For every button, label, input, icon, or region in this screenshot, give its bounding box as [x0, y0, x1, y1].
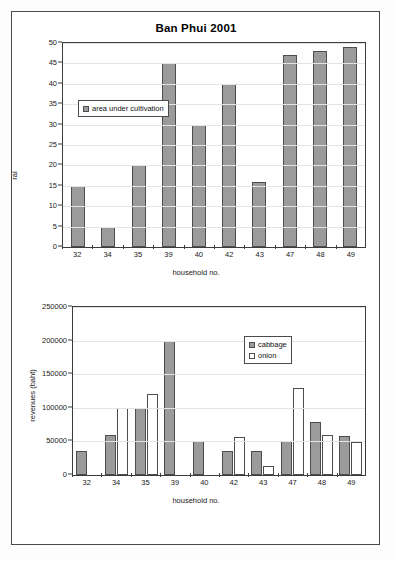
x-tick-label-48: 48: [307, 478, 336, 494]
gridline: [63, 145, 365, 146]
bar-group: [307, 307, 336, 475]
chart2-bars-layer: [73, 307, 365, 475]
legend-item-cultivation: area under cultivation: [83, 103, 164, 114]
bar-cultivation-34: [101, 227, 115, 247]
gridline: [63, 43, 365, 44]
x-tick-mark: [92, 245, 93, 249]
x-tick-label-42: 42: [214, 250, 244, 266]
y-tick-label: 15: [49, 180, 57, 189]
bar-cabbage-47: [281, 441, 292, 475]
chart-panel-cultivation: Ban Phui 2001 rai 05101520253035404550 3…: [16, 16, 376, 292]
x-tick-mark: [336, 245, 337, 249]
bar-group: [190, 307, 219, 475]
x-tick-label-34: 34: [92, 250, 122, 266]
x-tick-mark: [153, 245, 154, 249]
x-tick-label-43: 43: [248, 478, 277, 494]
bar-group: [277, 307, 306, 475]
chart1-y-axis: rai 05101520253035404550: [24, 42, 62, 248]
chart1-title: Ban Phui 2001: [16, 22, 376, 37]
legend-item-onion: onion: [249, 350, 287, 361]
x-tick-label-42: 42: [219, 478, 248, 494]
gridline: [73, 341, 365, 342]
chart1-x-axis-title: household no.: [16, 268, 376, 277]
x-tick-label-48: 48: [305, 250, 335, 266]
x-tick-mark: [337, 473, 338, 477]
x-tick-label-47: 47: [275, 250, 305, 266]
bar-onion-47: [293, 388, 304, 475]
x-tick-label-40: 40: [190, 478, 219, 494]
bar-cultivation-49: [343, 47, 357, 247]
bar-group: [161, 307, 190, 475]
bar-group: [219, 307, 248, 475]
bar-group: [131, 307, 160, 475]
bar-group: [73, 307, 102, 475]
chart1-plot-wrap: [62, 42, 366, 248]
bar-cabbage-40: [193, 441, 204, 475]
x-tick-mark: [305, 245, 306, 249]
x-tick-mark: [190, 473, 191, 477]
bar-group: [336, 307, 365, 475]
y-tick-label: 45: [49, 58, 57, 67]
bar-group: [102, 307, 131, 475]
x-tick-mark: [307, 473, 308, 477]
x-tick-label-32: 32: [72, 478, 101, 494]
gridline: [63, 125, 365, 126]
page-root: Ban Phui 2001 rai 05101520253035404550 3…: [0, 0, 395, 561]
chart2-x-axis-title: household no.: [16, 496, 376, 505]
bar-onion-35: [147, 394, 158, 475]
chart2-y-axis: revenues (baht) 050000100000150000200000…: [28, 306, 72, 476]
chart-panel-revenues: revenues (baht) 050000100000150000200000…: [16, 300, 376, 540]
bar-cultivation-48: [313, 51, 327, 247]
gridline: [63, 63, 365, 64]
x-tick-label-49: 49: [336, 250, 366, 266]
x-tick-mark: [131, 473, 132, 477]
x-tick-mark: [214, 245, 215, 249]
bar-cultivation-32: [71, 186, 85, 247]
chart2-plot-wrap: [72, 306, 366, 476]
gridline: [63, 165, 365, 166]
bar-cabbage-32: [76, 451, 87, 475]
bar-cultivation-39: [162, 63, 176, 247]
chart2-x-axis: 32343539404243474849: [72, 478, 366, 494]
bar-cabbage-43: [251, 451, 262, 475]
x-tick-mark: [184, 245, 185, 249]
y-tick-label: 30: [49, 119, 57, 128]
x-tick-mark: [62, 245, 63, 249]
chart1-legend: area under cultivation: [78, 100, 169, 117]
x-tick-label-39: 39: [153, 250, 183, 266]
chart1-y-axis-title: rai: [10, 171, 19, 179]
gridline: [63, 84, 365, 85]
gridline: [63, 227, 365, 228]
x-tick-mark: [248, 473, 249, 477]
x-tick-mark: [244, 245, 245, 249]
y-tick-label: 35: [49, 99, 57, 108]
legend-label-onion: onion: [258, 350, 276, 361]
gridline: [63, 206, 365, 207]
legend-swatch-icon-cabbage: [249, 342, 255, 348]
gridline: [73, 408, 365, 409]
bar-onion-49: [351, 442, 362, 475]
chart2-legend: cabbage onion: [244, 336, 292, 364]
x-tick-label-43: 43: [244, 250, 274, 266]
bar-onion-42: [234, 437, 245, 475]
chart1-plot-area: [62, 42, 366, 248]
x-tick-mark: [160, 473, 161, 477]
x-tick-label-47: 47: [278, 478, 307, 494]
bar-cultivation-43: [252, 182, 266, 247]
legend-label-cultivation: area under cultivation: [92, 103, 164, 114]
gridline: [73, 441, 365, 442]
y-tick-label: 0: [63, 470, 67, 479]
gridline: [73, 374, 365, 375]
x-tick-mark: [72, 473, 73, 477]
legend-item-cabbage: cabbage: [249, 339, 287, 350]
x-tick-label-39: 39: [160, 478, 189, 494]
chart1-x-axis: 32343539404243474849: [62, 250, 366, 266]
x-tick-mark: [275, 245, 276, 249]
bar-cabbage-42: [222, 451, 233, 475]
chart2-plot-area: [72, 306, 366, 476]
x-tick-label-35: 35: [123, 250, 153, 266]
legend-label-cabbage: cabbage: [258, 339, 287, 350]
y-tick-label: 40: [49, 78, 57, 87]
y-tick-label: 20: [49, 160, 57, 169]
x-tick-label-32: 32: [62, 250, 92, 266]
